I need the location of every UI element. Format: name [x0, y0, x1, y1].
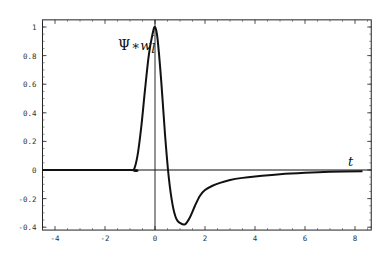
svg-text:-0.2: -0.2 [18, 195, 36, 204]
axis-tick-labels: -4-202468-0.4-0.200.20.40.60.81 [18, 23, 357, 243]
svg-text:0.2: 0.2 [23, 137, 37, 146]
axis-ticks [43, 20, 372, 230]
chart: -4-202468-0.4-0.200.20.40.60.81 Ψ∗w′l t [0, 0, 390, 253]
svg-text:2: 2 [203, 234, 208, 243]
svg-text:0: 0 [153, 234, 158, 243]
svg-text:0: 0 [32, 166, 37, 175]
svg-text:0.4: 0.4 [23, 109, 37, 118]
plot-frame [43, 20, 372, 230]
svg-text:-4: -4 [50, 234, 60, 243]
annotation-psi-label: Ψ∗w′l [118, 33, 155, 56]
svg-text:0.8: 0.8 [23, 52, 37, 61]
svg-text:6: 6 [303, 234, 308, 243]
svg-text:-2: -2 [100, 234, 109, 243]
data-line [43, 27, 363, 225]
svg-text:8: 8 [353, 234, 358, 243]
x-axis-label-t: t [348, 154, 354, 169]
svg-text:1: 1 [32, 23, 37, 32]
zero-axes [43, 20, 372, 230]
svg-text:0.6: 0.6 [23, 80, 37, 89]
svg-text:4: 4 [253, 234, 258, 243]
svg-text:-0.4: -0.4 [18, 223, 37, 232]
